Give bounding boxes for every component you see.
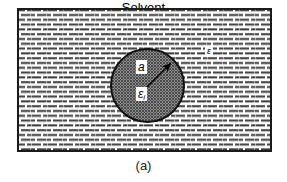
figure-caption: (a) [0,158,287,173]
spherical-cavity [110,48,185,123]
cavity-radius-label: a [136,60,147,74]
internal-dielectric-label: εi [136,87,147,101]
external-dielectric-label: ε [205,47,213,56]
figure-container: a εi ε Solvent medium (a) [0,0,287,182]
internal-dielectric-subscript: i [143,93,145,102]
